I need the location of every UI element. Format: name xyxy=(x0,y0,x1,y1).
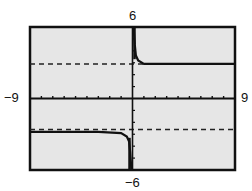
ymax-label: 6 xyxy=(129,9,136,22)
xmin-label: −9 xyxy=(4,91,19,104)
xmax-label: 9 xyxy=(241,91,248,104)
graph-plot xyxy=(0,0,252,191)
ymin-label: −6 xyxy=(125,176,140,189)
